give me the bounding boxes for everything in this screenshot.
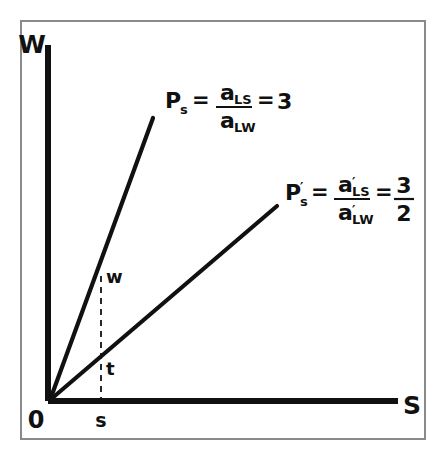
origin-label: 0 <box>28 406 45 434</box>
equation-ps-prime-lhs-sub: s <box>300 194 308 209</box>
equation-ps: P s = a LS a LW = 3 <box>165 80 292 135</box>
equation-ps-lhs-sub: s <box>180 102 188 117</box>
equation-ps-numerator: a <box>220 80 235 105</box>
equation-ps-equals-2: = <box>257 88 275 112</box>
economics-ppf-wage-diagram: W S 0 s w t P s = a LS a LW = 3 P ′ s = <box>0 0 444 459</box>
equation-ps-numerator-sub: LS <box>234 92 252 107</box>
equation-ps-prime-equals-1: = <box>311 180 329 204</box>
equation-ps-prime-equals-2: = <box>375 180 393 204</box>
figure-container: W S 0 s w t P s = a LS a LW = 3 P ′ s = <box>0 0 444 459</box>
equation-ps-prime-lhs-prime: ′ <box>300 179 304 194</box>
equation-ps-lhs: P <box>165 88 181 113</box>
equation-ps-prime-numerator-sub: LS <box>352 184 370 199</box>
equation-ps-prime-value-numerator: 3 <box>396 173 411 198</box>
equation-ps-prime-denominator: a <box>338 200 353 225</box>
x-tick-label-s: s <box>95 409 106 431</box>
x-axis-label: S <box>403 391 421 420</box>
equation-ps-prime-denominator-sub: LW <box>352 212 374 227</box>
equation-ps-equals-1: = <box>192 88 210 112</box>
equation-ps-value: 3 <box>277 89 292 114</box>
equation-ps-prime: P ′ s = a ′ LS a ′ LW = 3 2 <box>285 172 414 227</box>
point-label-t: t <box>106 358 115 379</box>
equation-ps-prime-value-denominator: 2 <box>396 201 411 226</box>
point-label-w: w <box>106 266 123 287</box>
equation-ps-denominator: a <box>220 108 235 133</box>
equation-ps-prime-lhs: P <box>285 180 301 205</box>
equation-ps-prime-numerator: a <box>338 172 353 197</box>
y-axis-label: W <box>18 30 46 59</box>
equation-ps-denominator-sub: LW <box>234 120 256 135</box>
